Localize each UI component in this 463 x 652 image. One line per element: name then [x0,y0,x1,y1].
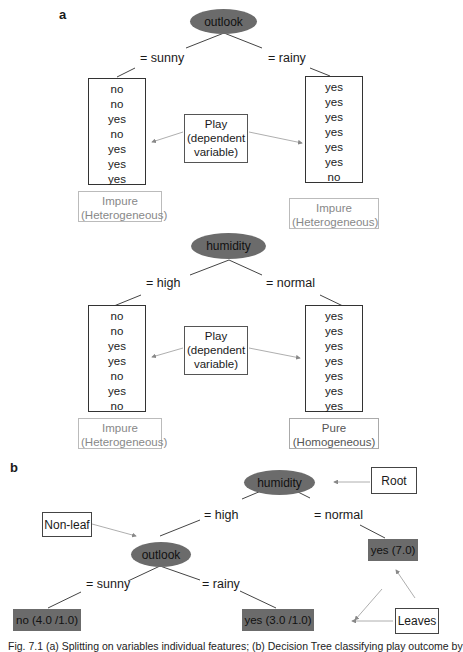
list-item: yes [325,309,343,324]
purity-subtitle: (Heterogeneous) [81,435,159,449]
branch-label-sunny-b: = sunny [86,577,130,591]
list-item: yes [325,80,343,95]
list-item: no [111,97,124,112]
list-item: yes [325,155,343,170]
list-item: yes [325,384,343,399]
value-list-rainy: yes yes yes yes yes yes no [305,76,363,183]
value-list-normal: yes yes yes yes yes yes yes [305,305,363,412]
list-item: no [111,324,124,339]
play-label-line: variable) [187,357,245,371]
list-item: yes [325,354,343,369]
branch-label-rainy: = rainy [268,51,306,65]
leaf-no-sunny: no (4.0 /1.0) [13,609,81,631]
panel-a-label: a [59,7,66,22]
value-list-high: no no yes yes no yes no [88,305,146,412]
panel-b-label: b [10,460,18,475]
figure-caption: Fig. 7.1 (a) Splitting on variables indi… [8,640,463,652]
value-list-sunny: no no yes no yes yes yes [88,78,146,185]
list-item: yes [325,110,343,125]
root-node-outlook: outlook [190,9,257,34]
purity-label-sunny: Impure (Heterogeneous) [78,191,162,222]
list-item: yes [325,324,343,339]
list-item: no [111,369,124,384]
list-item: yes [108,354,126,369]
purity-subtitle: (Heterogeneous) [81,208,159,222]
play-label-line: (dependent [187,131,245,145]
play-label-line: variable) [187,145,245,159]
list-item: yes [108,112,126,127]
list-item: yes [325,399,343,414]
list-item: yes [325,95,343,110]
purity-subtitle: (Homogeneous) [292,435,376,449]
nonleaf-callout: Non-leaf [42,512,92,537]
branch-label-normal: = normal [266,276,315,290]
branch-label-sunny: = sunny [140,51,184,65]
purity-title: Impure [81,421,159,435]
branch-label-rainy-b: = rainy [202,577,240,591]
leaf-yes-normal: yes (7.0) [368,539,418,561]
play-label-line: Play [187,329,245,343]
purity-title: Impure [81,194,159,208]
list-item: yes [325,140,343,155]
purity-label-rainy: Impure (Heterogeneous) [289,198,379,229]
list-item: no [111,309,124,324]
list-item: no [111,82,124,97]
list-item: yes [108,157,126,172]
list-item: yes [108,384,126,399]
list-item: yes [325,369,343,384]
root-node-humidity-b: humidity [244,470,315,495]
list-item: yes [108,172,126,187]
play-dependent-variable-box: Play (dependent variable) [184,326,248,375]
leaf-yes-rainy: yes (3.0 /1.0) [242,609,314,631]
purity-label-normal: Pure (Homogeneous) [289,418,379,449]
list-item: yes [325,125,343,140]
purity-title: Pure [292,421,376,435]
list-item: no [111,127,124,142]
play-label-line: Play [187,117,245,131]
branch-label-high-b: = high [204,508,238,522]
list-item: no [111,399,124,414]
root-callout: Root [371,467,417,494]
leaves-callout: Leaves [395,608,439,634]
branch-label-high: = high [146,276,180,290]
branch-label-normal-b: = normal [314,508,363,522]
play-dependent-variable-box: Play (dependent variable) [184,114,248,163]
inner-node-outlook: outlook [131,542,191,567]
purity-subtitle: (Heterogeneous) [292,215,376,229]
list-item: no [328,170,341,185]
purity-title: Impure [292,201,376,215]
list-item: yes [108,339,126,354]
play-label-line: (dependent [187,343,245,357]
purity-label-high: Impure (Heterogeneous) [78,418,162,449]
list-item: yes [325,339,343,354]
list-item: yes [108,142,126,157]
root-node-humidity: humidity [191,233,266,259]
